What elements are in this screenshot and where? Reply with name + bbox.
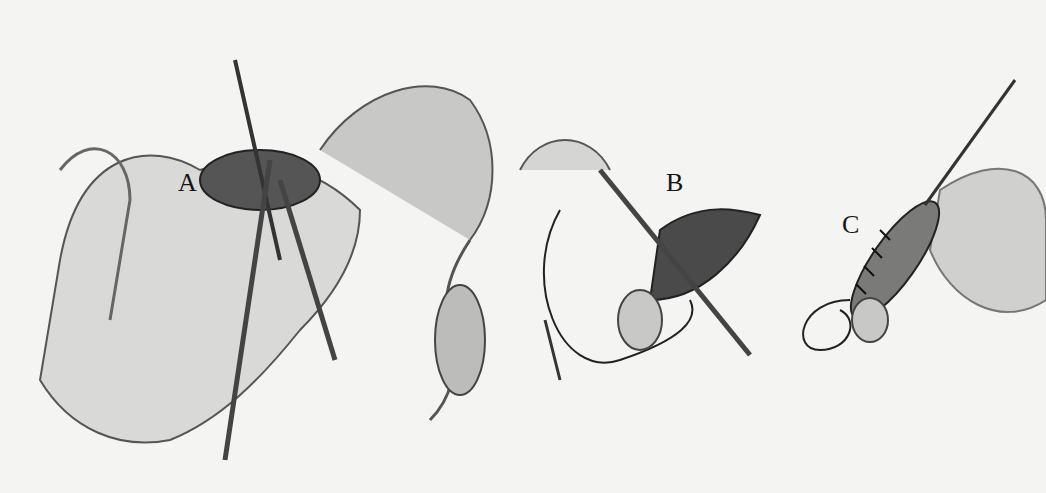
panel-label-a: A [178,168,197,198]
panel-label-b: B [666,168,683,198]
illustration [0,0,1046,493]
panel-c-drawing [803,80,1046,350]
panel-b-drawing [520,140,760,380]
panel-a-drawing [40,60,493,460]
panel-label-c: C [842,210,859,240]
figure-canvas: A B C [0,0,1046,493]
